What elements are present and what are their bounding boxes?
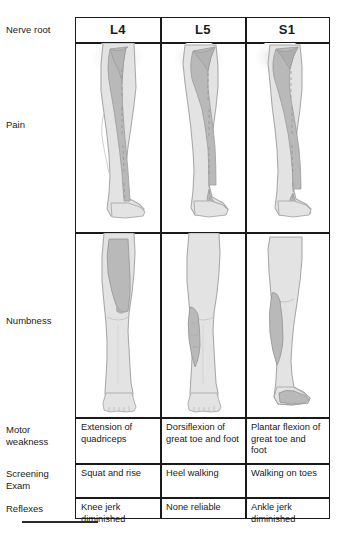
reflexes-cell-l5: None reliable xyxy=(161,498,245,520)
column-header-l5: L5 xyxy=(161,18,245,42)
row-label-reflexes: Reflexes xyxy=(6,503,72,515)
motor-weakness-line-1: Motor xyxy=(6,424,72,436)
pain-illustration-l5 xyxy=(161,43,245,232)
row-label-pain: Pain xyxy=(6,119,72,131)
motor-weakness-cell-l5: Dorsiflexion of great toe and foot xyxy=(161,418,245,463)
screening-exam-cell-l4: Squat and rise xyxy=(76,464,160,497)
numbness-illustration-l4 xyxy=(76,233,160,417)
motor-weakness-cell-l4: Extension of quadriceps xyxy=(76,418,160,463)
pain-illustration-l4 xyxy=(76,43,160,232)
screening-exam-line-2: Exam xyxy=(6,480,72,492)
row-label-numbness: Numbness xyxy=(6,315,72,327)
screening-exam-cell-s1: Walking on toes xyxy=(246,464,328,497)
row-label-screening-exam: Screening Exam xyxy=(6,468,72,491)
caption-rule xyxy=(22,521,98,523)
column-header-l4: L4 xyxy=(76,18,160,42)
row-label-nerve-root: Nerve root xyxy=(6,24,72,36)
column-header-s1: S1 xyxy=(246,18,328,42)
motor-weakness-line-2: weakness xyxy=(6,436,72,448)
nerve-root-findings-figure: Nerve root Pain Numbness Motor weakness … xyxy=(0,0,343,535)
motor-weakness-cell-s1: Plantar flexion of great toe and foot xyxy=(246,418,328,463)
pain-illustration-s1 xyxy=(246,43,328,232)
numbness-illustration-l5 xyxy=(161,233,245,417)
numbness-illustration-s1 xyxy=(246,233,328,417)
reflexes-cell-l4: Knee jerk diminished xyxy=(76,498,160,520)
row-label-motor-weakness: Motor weakness xyxy=(6,424,72,447)
screening-exam-cell-l5: Heel walking xyxy=(161,464,245,497)
reflexes-cell-s1: Ankle jerk diminished xyxy=(246,498,328,520)
findings-table: L4 L5 S1 xyxy=(75,17,330,519)
screening-exam-line-1: Screening xyxy=(6,468,72,480)
